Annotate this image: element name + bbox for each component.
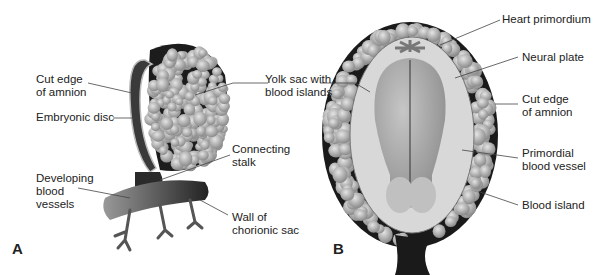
yolk-bubble (338, 144, 351, 156)
yolk-bubble (167, 102, 176, 111)
label-connecting-stalk: Connecting stalk (232, 143, 290, 169)
label-yolk-sac: Yolk sac with blood islands (265, 73, 332, 99)
yolk-bubble (378, 30, 391, 45)
yolk-bubble (463, 190, 476, 205)
label-heart-primordium: Heart primordium (502, 13, 591, 26)
yolk-bubble (175, 98, 183, 105)
yolk-bubble (340, 188, 354, 201)
yolk-bubble (177, 114, 190, 127)
yolk-bubble (207, 115, 216, 125)
yolk-bubble (324, 132, 335, 143)
yolk-bubble (455, 203, 470, 216)
panel-letter-b: B (333, 240, 344, 257)
label-cut-edge-amnion-b: Cut edge of amnion (522, 93, 573, 119)
label-developing-vessels: Developing blood vessels (36, 172, 94, 211)
yolk-bubble (185, 92, 195, 101)
yolk-bubble (426, 28, 441, 42)
figure-illustration (0, 0, 605, 275)
yolk-sac-a (144, 44, 230, 171)
embryo-oval-b (322, 22, 498, 275)
yolk-bubble (156, 78, 169, 92)
yolk-bubble (193, 111, 206, 125)
yolk-bubble (477, 98, 489, 109)
panel-letter-a: A (12, 240, 23, 257)
yolk-bubble (205, 125, 218, 137)
yolk-bubble (165, 91, 174, 99)
yolk-bubble (160, 117, 173, 130)
label-embryonic-disc: Embryonic disc (36, 111, 114, 124)
yolk-bubble (148, 102, 161, 114)
yolk-bubble (159, 146, 167, 155)
yolk-bubble (354, 210, 367, 221)
label-cut-edge-amnion-a: Cut edge of amnion (36, 73, 87, 99)
yolk-bubble (332, 89, 343, 99)
yolk-bubble (478, 109, 488, 119)
yolk-bubble (171, 138, 180, 146)
yolk-bubble (208, 96, 217, 105)
yolk-bubble (457, 54, 473, 68)
yolk-bubble (445, 216, 457, 227)
yolk-bubble (196, 126, 206, 136)
yolk-bubble (470, 75, 482, 86)
yolk-bubble (167, 49, 178, 62)
label-primordial-vessel: Primordial blood vessel (522, 147, 586, 173)
label-chorionic-wall: Wall of chorionic sac (232, 211, 299, 237)
yolk-bubble (480, 165, 492, 178)
label-blood-island: Blood island (522, 199, 585, 212)
yolk-bubble (151, 123, 160, 131)
yolk-bubble (219, 93, 231, 104)
yolk-bubble (470, 178, 480, 189)
yolk-bubble (200, 140, 210, 150)
yolk-bubble (332, 166, 347, 183)
yolk-bubble (198, 150, 209, 160)
yolk-bubble (182, 128, 193, 137)
yolk-bubble (407, 26, 418, 36)
yolk-bubble (179, 151, 193, 166)
yolk-bubble (367, 221, 380, 233)
yolk-bubble (212, 67, 222, 76)
yolk-bubble (342, 60, 355, 72)
yolk-bubble (198, 49, 207, 57)
yolk-bubble (328, 118, 340, 129)
yolk-bubble (196, 60, 210, 72)
label-neural-plate: Neural plate (522, 51, 584, 64)
yolk-bubble (335, 129, 351, 143)
yolk-bubble (152, 131, 165, 142)
